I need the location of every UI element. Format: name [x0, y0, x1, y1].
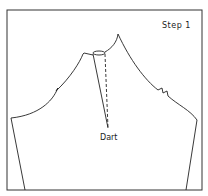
- right-armhole-curve: [118, 34, 197, 120]
- dart-label: Dart: [100, 133, 118, 142]
- left-armhole-curve: [11, 54, 83, 118]
- left-side-seam: [11, 118, 25, 190]
- neck-curve: [105, 34, 118, 52]
- right-side-seam: [186, 120, 197, 190]
- dart-top-ellipse: [93, 51, 105, 55]
- step-label: Step 1: [162, 21, 191, 30]
- left-shoulder: [83, 53, 93, 55]
